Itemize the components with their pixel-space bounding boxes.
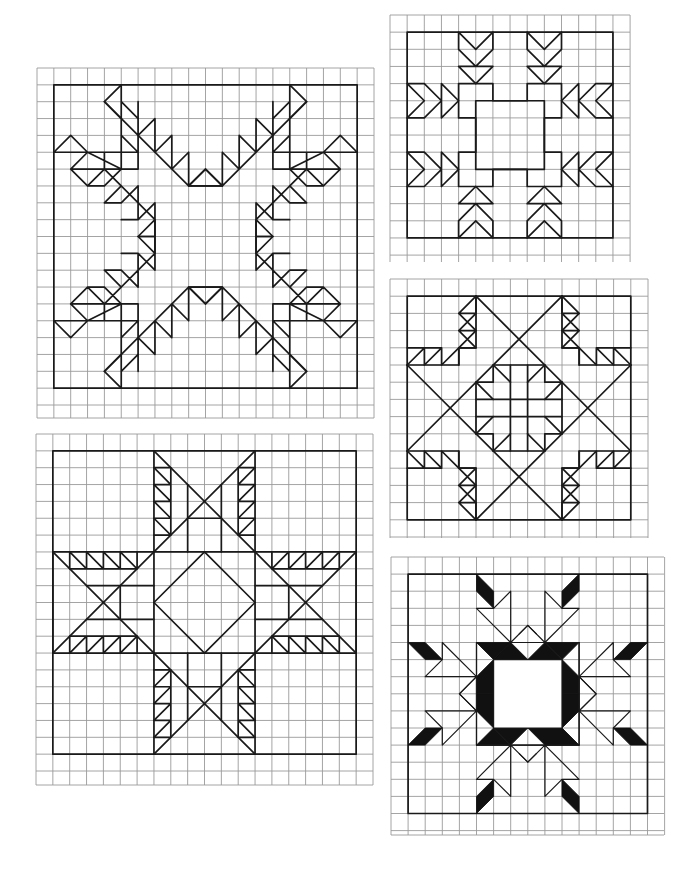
- block-2-grid: [390, 15, 630, 262]
- block-5-snowflake-star: [391, 557, 665, 835]
- block-3-feathered-star-cross: [390, 279, 648, 538]
- block-3-grid: [390, 279, 648, 538]
- block-1-grid: [37, 68, 374, 418]
- block-1-feathered-x-star: [37, 68, 374, 418]
- block-2-arrow-square: [390, 15, 630, 262]
- block-3-pattern: [407, 296, 631, 520]
- graph-paper-sheet: [0, 0, 691, 873]
- block-4-grid: [36, 434, 373, 785]
- block-4-feathered-eight-point-star: [36, 434, 373, 785]
